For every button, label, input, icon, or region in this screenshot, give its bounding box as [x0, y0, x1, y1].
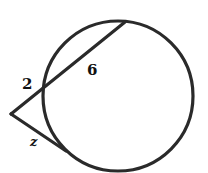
- tangent-segment-label: z: [30, 135, 37, 148]
- internal-segment-label: 6: [87, 63, 97, 78]
- secant-line: [11, 22, 125, 114]
- external-segment-label: 2: [22, 77, 32, 92]
- circle: [43, 21, 193, 171]
- tangent-line: [11, 114, 66, 151]
